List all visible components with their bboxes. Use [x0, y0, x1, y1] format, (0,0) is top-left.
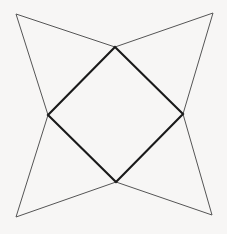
- star-figure-svg: [0, 0, 227, 234]
- figure-background: [0, 0, 227, 234]
- geometric-figure-container: [0, 0, 227, 234]
